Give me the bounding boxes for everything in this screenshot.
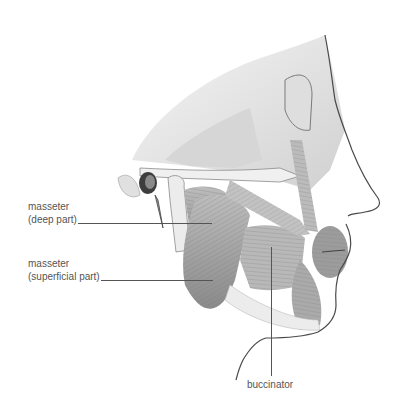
leader-line-masseter-superficial <box>101 280 213 281</box>
leader-line-buccinator <box>271 247 272 376</box>
label-masseter-deep: masseter (deep part) <box>28 201 77 226</box>
label-masseter-superficial: masseter (superficial part) <box>28 258 100 283</box>
label-masseter-superficial-line1: masseter <box>28 258 100 271</box>
label-buccinator: buccinator <box>247 379 293 392</box>
label-masseter-deep-line2: (deep part) <box>28 214 77 227</box>
label-masseter-deep-line1: masseter <box>28 201 77 214</box>
label-masseter-superficial-line2: (superficial part) <box>28 271 100 284</box>
leader-line-masseter-deep <box>78 223 212 224</box>
